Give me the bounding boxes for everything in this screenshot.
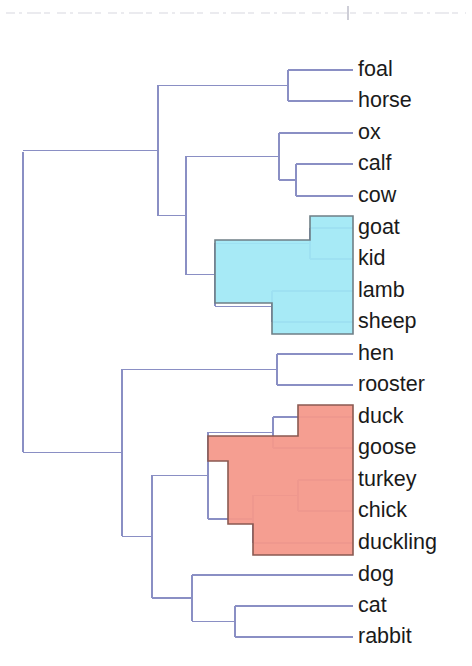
leaf-label-lamb: lamb bbox=[358, 280, 405, 302]
leaf-label-ox: ox bbox=[358, 122, 381, 144]
leaf-label-cat: cat bbox=[358, 595, 387, 617]
leaf-label-rooster: rooster bbox=[358, 374, 425, 396]
leaf-label-sheep: sheep bbox=[358, 311, 417, 333]
leaf-label-turkey: turkey bbox=[358, 469, 417, 491]
leaf-labels-layer: foalhorseoxcalfcowgoatkidlambsheephenroo… bbox=[0, 0, 472, 666]
leaf-label-hen: hen bbox=[358, 343, 394, 365]
leaf-label-chick: chick bbox=[358, 500, 407, 522]
leaf-label-duck: duck bbox=[358, 406, 403, 428]
leaf-label-goose: goose bbox=[358, 437, 417, 459]
leaf-label-dog: dog bbox=[358, 564, 394, 586]
leaf-label-cow: cow bbox=[358, 185, 396, 207]
leaf-label-rabbit: rabbit bbox=[358, 626, 412, 648]
leaf-label-goat: goat bbox=[358, 217, 400, 239]
leaf-label-kid: kid bbox=[358, 248, 385, 270]
leaf-label-calf: calf bbox=[358, 153, 391, 175]
leaf-label-foal: foal bbox=[358, 59, 393, 81]
leaf-label-duckling: duckling bbox=[358, 532, 437, 554]
leaf-label-horse: horse bbox=[358, 90, 412, 112]
dendrogram-figure: foalhorseoxcalfcowgoatkidlambsheephenroo… bbox=[0, 0, 472, 666]
